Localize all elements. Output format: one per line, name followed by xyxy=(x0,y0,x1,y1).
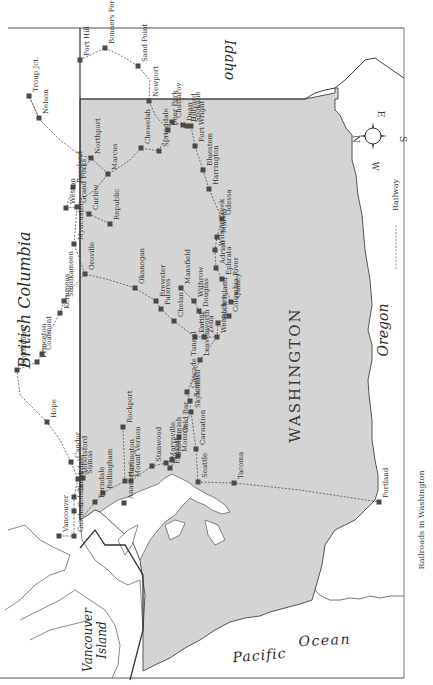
legend: Railway xyxy=(391,178,400,270)
compass-rose: N E S W xyxy=(351,111,408,172)
label-oregon: Oregon xyxy=(375,304,391,357)
label-island: Island xyxy=(95,621,109,660)
station-marker xyxy=(106,172,111,177)
label-british-columbia: British Columbia xyxy=(15,231,34,369)
station-marker xyxy=(150,464,155,469)
station-marker xyxy=(192,299,197,304)
station-marker xyxy=(213,248,218,253)
station-marker xyxy=(198,358,203,363)
station-label: Chewelah xyxy=(144,108,152,144)
station-label: Anacortes xyxy=(127,463,135,500)
station-label: Princeton xyxy=(40,323,48,358)
station-label: Carnation xyxy=(199,409,207,445)
station-label: Sand Point xyxy=(141,23,149,62)
station-marker xyxy=(35,360,40,365)
station-marker xyxy=(139,146,144,151)
station-label: Fort Wright xyxy=(198,100,206,142)
station-label: Marcus xyxy=(111,143,119,170)
legend-railway-label: Railway xyxy=(391,178,400,211)
label-pacific: Pacific xyxy=(231,645,287,666)
station-marker xyxy=(108,222,113,227)
station-label: Colebrook xyxy=(77,470,85,507)
station-marker xyxy=(154,299,159,304)
station-marker xyxy=(78,58,83,63)
station-marker xyxy=(103,46,108,51)
station-marker xyxy=(214,266,219,271)
label-washington: WASHINGTON xyxy=(286,307,304,442)
station-marker xyxy=(232,481,237,486)
station-marker xyxy=(147,99,152,104)
station-marker xyxy=(193,144,198,149)
label-ocean: Ocean xyxy=(298,631,351,650)
station-label: Newport xyxy=(152,66,160,97)
station-marker xyxy=(83,272,88,277)
station-marker xyxy=(37,116,42,121)
station-label: Leavenworth xyxy=(203,309,211,356)
station-marker xyxy=(133,286,138,291)
station-label: Hope xyxy=(50,399,58,418)
station-marker xyxy=(72,509,77,514)
map-caption: Railroads in Washington xyxy=(417,470,426,569)
station-marker xyxy=(72,495,77,500)
station-marker xyxy=(136,64,141,69)
station-marker xyxy=(57,534,62,539)
station-label: Bonners Ferry xyxy=(108,0,116,44)
station-label: Okanogan xyxy=(138,247,146,284)
station-marker xyxy=(377,500,382,505)
station-marker xyxy=(27,94,32,99)
station-label: Skykomish xyxy=(194,369,202,408)
station-label: Port Hill xyxy=(83,25,91,56)
station-label: Ferndale xyxy=(98,466,106,498)
station-label: Tacoma xyxy=(237,452,245,479)
station-label: Stanwood xyxy=(155,426,163,462)
station-marker xyxy=(157,149,162,154)
station-marker xyxy=(89,156,94,161)
station-label: Bellingham xyxy=(106,448,114,489)
station-label: Pateros xyxy=(164,278,172,305)
station-label: Douglas xyxy=(202,278,210,307)
station-marker xyxy=(227,314,232,319)
station-label: Republic xyxy=(113,189,121,220)
label-vancouver: Vancouver xyxy=(81,607,95,672)
station-marker xyxy=(196,480,201,485)
station-marker xyxy=(58,311,63,316)
station-label: Vancouver xyxy=(62,494,70,533)
station-marker xyxy=(72,534,77,539)
station-marker xyxy=(179,286,184,291)
station-marker xyxy=(69,460,74,465)
station-label: Guichon xyxy=(77,502,85,532)
compass-s: S xyxy=(398,136,408,142)
station-label: Candor xyxy=(74,431,82,458)
station-marker xyxy=(168,466,173,471)
station-label: Everett xyxy=(173,437,181,464)
station-marker xyxy=(45,420,50,425)
station-marker xyxy=(172,319,177,324)
station-label: Rock Island xyxy=(221,277,229,319)
station-label: Grand Forks xyxy=(80,158,88,203)
station-marker xyxy=(201,168,206,173)
station-marker xyxy=(164,461,169,466)
station-marker xyxy=(194,447,199,452)
station-label: Deer Park xyxy=(171,90,179,126)
station-label: Keremeos xyxy=(63,273,71,309)
compass-w: W xyxy=(370,161,380,171)
station-marker xyxy=(122,501,127,506)
station-marker xyxy=(93,500,98,505)
idaho-border xyxy=(305,58,404,99)
station-label: Rockport xyxy=(126,390,134,423)
station-label: Northport xyxy=(94,118,102,154)
station-marker xyxy=(185,390,190,395)
station-label: Troup Jct. xyxy=(32,57,40,92)
station-label: Weston xyxy=(69,178,77,204)
station-marker xyxy=(121,425,126,430)
station-label: Curlew xyxy=(92,184,100,210)
station-label: Chelan xyxy=(177,292,185,317)
station-label: Springdale xyxy=(162,108,170,147)
station-marker xyxy=(215,335,220,340)
station-marker xyxy=(64,206,69,211)
station-marker xyxy=(189,124,194,129)
compass-n: N xyxy=(351,135,361,143)
label-idaho: Idaho xyxy=(222,39,238,80)
station-label: Wilson Creek xyxy=(218,198,226,246)
station-marker xyxy=(216,321,221,326)
